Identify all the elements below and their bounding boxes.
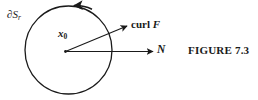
boundary-label-subscript: r: [18, 13, 21, 22]
center-point-label-subscript: 0: [64, 32, 68, 41]
normal-vector-label: N: [157, 44, 165, 56]
curl-f-arrow: [66, 26, 128, 52]
figure-container: ∂Sr x0 curl F N FIGURE 7.3: [0, 0, 258, 100]
curl-operator-text: curl: [131, 18, 150, 30]
curl-f-label: curl F: [131, 19, 160, 30]
boundary-label: ∂Sr: [7, 9, 21, 21]
center-point-label: x0: [58, 28, 67, 40]
curl-field-variable: F: [153, 18, 160, 30]
boundary-label-base: ∂S: [7, 8, 18, 20]
figure-caption: FIGURE 7.3: [188, 45, 249, 56]
